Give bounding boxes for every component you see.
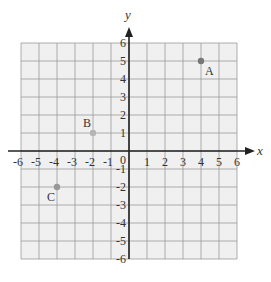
y-tick-label: 2 bbox=[120, 108, 126, 122]
point-label-a: A bbox=[205, 64, 214, 78]
x-tick-label: 4 bbox=[198, 155, 204, 169]
y-tick-label: -3 bbox=[116, 198, 126, 212]
point-label-c: C bbox=[47, 190, 55, 204]
coordinate-plane: xy -6-5-4-3-2-10123456654321-1-2-3-4-5-6… bbox=[0, 0, 271, 282]
x-tick-label: 2 bbox=[162, 155, 168, 169]
x-axis-label: x bbox=[256, 143, 263, 158]
y-tick-label: 6 bbox=[120, 36, 126, 50]
y-tick-label: -5 bbox=[116, 234, 126, 248]
y-tick-label: 5 bbox=[120, 54, 126, 68]
x-tick-label: -1 bbox=[103, 155, 113, 169]
y-tick-label: 3 bbox=[120, 90, 126, 104]
y-tick-label: -6 bbox=[116, 252, 126, 266]
x-tick-label: -2 bbox=[85, 155, 95, 169]
x-tick-label: -6 bbox=[13, 155, 23, 169]
x-tick-label: -5 bbox=[31, 155, 41, 169]
y-axis-label: y bbox=[123, 7, 131, 22]
x-tick-label: 3 bbox=[180, 155, 186, 169]
y-tick-label: 1 bbox=[120, 126, 126, 140]
y-axis-arrow-icon bbox=[125, 27, 133, 37]
x-axis-arrow-icon bbox=[245, 147, 255, 155]
point-a bbox=[198, 58, 204, 64]
x-tick-label: 6 bbox=[234, 155, 240, 169]
y-tick-label: -4 bbox=[116, 216, 126, 230]
point-b bbox=[90, 130, 96, 136]
y-tick-label: 4 bbox=[120, 72, 126, 86]
x-tick-label: 5 bbox=[216, 155, 222, 169]
x-tick-label: -4 bbox=[49, 155, 59, 169]
x-tick-label: -3 bbox=[67, 155, 77, 169]
y-tick-label: -1 bbox=[116, 162, 126, 176]
point-label-b: B bbox=[83, 116, 91, 130]
y-tick-label: -2 bbox=[116, 180, 126, 194]
x-tick-label: 1 bbox=[144, 155, 150, 169]
